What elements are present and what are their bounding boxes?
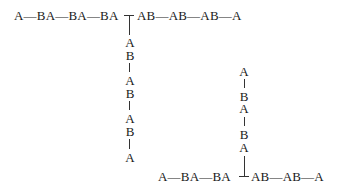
bottom-branch-bond-1 xyxy=(244,79,245,88)
bottom-branch-3: A xyxy=(238,102,250,115)
top-branch-4: B xyxy=(124,87,136,100)
top-branch-9: A xyxy=(124,151,136,164)
top-branch-bond-2 xyxy=(129,101,130,110)
top-chain-left: A—BA—BA—BA xyxy=(14,9,119,22)
top-branch-junction-v xyxy=(129,15,130,35)
top-chain-right: AB—AB—AB—A xyxy=(137,9,242,22)
bottom-chain-left: A—BA—BA xyxy=(158,170,231,183)
bottom-chain-right: AB—AB—A xyxy=(251,170,324,183)
bottom-branch-6: A xyxy=(238,141,250,154)
top-branch-7: B xyxy=(124,125,136,138)
top-branch-1: B xyxy=(124,49,136,62)
top-branch-bond-3 xyxy=(129,139,130,149)
top-branch-bond-1 xyxy=(129,63,130,72)
bottom-branch-junction-v xyxy=(244,156,245,176)
bottom-branch-junction-h xyxy=(239,176,249,177)
bottom-branch-0: A xyxy=(238,65,250,78)
bottom-branch-bond-2 xyxy=(244,117,245,126)
